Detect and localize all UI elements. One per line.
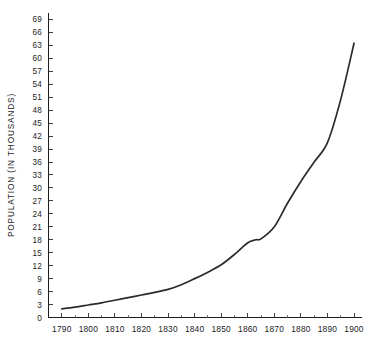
chart-plot-area: 0369121518212427303336394245485154576063… bbox=[0, 0, 370, 347]
y-tick-label-12: 12 bbox=[32, 262, 42, 271]
y-tick-label-6: 6 bbox=[37, 288, 42, 297]
y-axis-title: POPULATION (IN THOUSANDS) bbox=[7, 93, 16, 237]
y-tick-label-42: 42 bbox=[32, 132, 42, 141]
y-tick-label-30: 30 bbox=[32, 184, 42, 193]
y-axis-group: 0369121518212427303336394245485154576063… bbox=[32, 13, 52, 323]
x-tick-label-1800: 1800 bbox=[79, 324, 99, 334]
x-axis-group: 1790180018101820183018401850186018701880… bbox=[49, 313, 364, 334]
x-tick-label-1880: 1880 bbox=[291, 324, 311, 334]
x-tick-label-1810: 1810 bbox=[105, 324, 125, 334]
y-tick-label-57: 57 bbox=[32, 67, 42, 76]
y-tick-label-18: 18 bbox=[32, 236, 42, 245]
x-tick-marks bbox=[62, 313, 354, 318]
x-tick-label-1890: 1890 bbox=[318, 324, 338, 334]
population-line-chart-figure: 0369121518212427303336394245485154576063… bbox=[0, 0, 370, 347]
x-tick-label-1900: 1900 bbox=[344, 324, 364, 334]
x-tick-label-1830: 1830 bbox=[158, 324, 178, 334]
x-tick-label-1790: 1790 bbox=[52, 324, 72, 334]
y-tick-label-group: 0369121518212427303336394245485154576063… bbox=[32, 15, 42, 322]
y-tick-label-9: 9 bbox=[37, 275, 42, 284]
y-tick-label-39: 39 bbox=[32, 145, 42, 154]
y-tick-label-15: 15 bbox=[32, 249, 42, 258]
x-tick-label-1850: 1850 bbox=[211, 324, 231, 334]
y-tick-label-45: 45 bbox=[32, 119, 42, 128]
y-tick-label-48: 48 bbox=[32, 106, 42, 115]
y-tick-marks bbox=[49, 19, 53, 317]
y-tick-label-66: 66 bbox=[32, 28, 42, 37]
x-tick-label-1840: 1840 bbox=[185, 324, 205, 334]
series-line-population bbox=[62, 43, 354, 309]
y-tick-label-27: 27 bbox=[32, 197, 42, 206]
x-tick-label-1820: 1820 bbox=[132, 324, 152, 334]
data-series-group bbox=[62, 43, 354, 309]
y-tick-label-54: 54 bbox=[32, 80, 42, 89]
y-tick-label-63: 63 bbox=[32, 41, 42, 50]
y-tick-label-69: 69 bbox=[32, 15, 42, 24]
x-tick-label-1870: 1870 bbox=[265, 324, 285, 334]
y-tick-label-36: 36 bbox=[32, 158, 42, 167]
y-tick-label-51: 51 bbox=[32, 93, 42, 102]
y-tick-label-60: 60 bbox=[32, 54, 42, 63]
x-tick-label-group: 1790180018101820183018401850186018701880… bbox=[52, 324, 364, 334]
y-tick-label-24: 24 bbox=[32, 210, 42, 219]
y-tick-label-33: 33 bbox=[32, 171, 42, 180]
y-tick-label-3: 3 bbox=[37, 301, 42, 310]
y-tick-label-0: 0 bbox=[37, 314, 42, 323]
y-tick-label-21: 21 bbox=[32, 223, 42, 232]
x-tick-label-1860: 1860 bbox=[238, 324, 258, 334]
